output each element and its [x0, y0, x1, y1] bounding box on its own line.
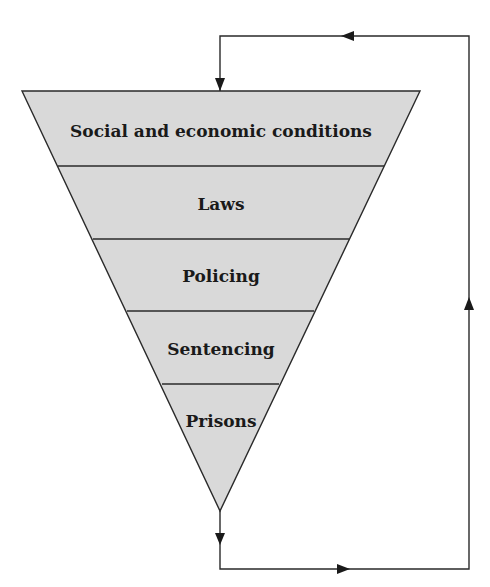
criminal-justice-funnel-diagram: Social and economic conditions Laws Poli… [0, 0, 490, 587]
funnel-shape [22, 91, 420, 511]
stage-policing: Policing [182, 266, 260, 286]
stage-sentencing: Sentencing [167, 339, 275, 359]
stage-prisons: Prisons [185, 411, 256, 431]
arrow-right-bottom-icon [337, 564, 350, 574]
arrow-up-right-side-icon [464, 297, 474, 310]
arrow-left-top-icon [341, 31, 354, 41]
stage-laws: Laws [197, 194, 244, 214]
stage-social-economic-conditions: Social and economic conditions [70, 121, 372, 141]
arrow-down-into-funnel-icon [215, 78, 225, 91]
arrow-down-from-tip-icon [215, 533, 225, 545]
